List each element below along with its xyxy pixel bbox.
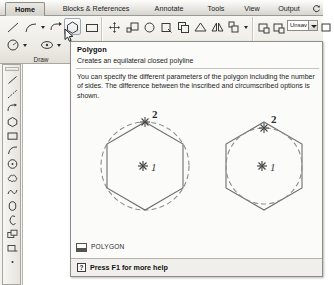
arc-tool[interactable]: [5, 143, 20, 157]
tooltip-command-label: POLYGON: [91, 243, 125, 250]
ribbon-tab-tools[interactable]: Tools: [200, 2, 232, 16]
tooltip-command-row: POLYGON: [76, 242, 319, 255]
layer-state-tool-button[interactable]: [271, 19, 285, 34]
svg-text:1: 1: [270, 161, 276, 173]
ribbon-tab-home[interactable]: Home: [5, 2, 45, 16]
layer-state-combo-value: Unsav: [290, 22, 307, 28]
insert-block-tool[interactable]: [5, 227, 20, 241]
layer-off-tool-button[interactable]: [319, 19, 333, 34]
toolbar-drag-handle[interactable]: [5, 67, 19, 71]
layer-properties-tool-button[interactable]: [256, 19, 270, 34]
spline-tool[interactable]: [5, 185, 20, 199]
chevron-down-icon[interactable]: [308, 21, 317, 30]
command-line-icon: [76, 243, 87, 252]
tooltip-help-hint: Press F1 for more help: [90, 263, 168, 272]
hatch-dropdown-button[interactable]: [54, 37, 62, 51]
construction-line-tool[interactable]: [5, 87, 20, 101]
array-dropdown-button[interactable]: [241, 19, 249, 34]
mirror-tool-button[interactable]: [209, 19, 224, 34]
ellipse-arc-tool[interactable]: [5, 213, 20, 227]
ribbon-tab-annotate[interactable]: Annotate: [145, 2, 193, 16]
tooltip-summary: Creates an equilateral closed polyline: [77, 57, 193, 64]
svg-text:2: 2: [152, 108, 158, 120]
scale-tool-button[interactable]: [124, 19, 139, 34]
svg-text:1: 1: [151, 161, 157, 173]
circle-tool-button[interactable]: [4, 37, 20, 51]
arc-tool-button[interactable]: [22, 19, 38, 34]
rotate-tool-button[interactable]: [141, 19, 156, 34]
rectangle-tool-button[interactable]: [83, 19, 99, 34]
extended-tooltip: Polygon Creates an equilateral closed po…: [70, 41, 323, 277]
svg-text:2: 2: [271, 113, 277, 125]
rectangle-tool[interactable]: [5, 129, 20, 143]
line-tool[interactable]: [5, 73, 20, 87]
arc-dropdown-button[interactable]: [38, 19, 46, 34]
ribbon-tab-strip: Home Blocks & References Annotate Tools …: [0, 0, 323, 16]
circle-tool[interactable]: [5, 157, 20, 171]
stretch-tool-button[interactable]: [192, 19, 207, 34]
layer-state-combo[interactable]: Unsav: [287, 20, 318, 31]
line-tool-button[interactable]: [4, 19, 20, 34]
tooltip-divider-top: [76, 68, 319, 69]
ribbon-tab-blocks-references[interactable]: Blocks & References: [55, 2, 137, 16]
polygon-tool[interactable]: [5, 115, 20, 129]
refresh-icon[interactable]: [312, 4, 321, 13]
ribbon-tab-output[interactable]: Output: [272, 2, 306, 16]
draw-panel-label: Draw: [18, 56, 64, 63]
move-tool-button[interactable]: [106, 19, 121, 34]
ellipse-tool[interactable]: [5, 199, 20, 213]
array-tool-button[interactable]: [226, 19, 241, 34]
tooltip-footer: ? Press F1 for more help: [71, 258, 322, 276]
polyline-tool[interactable]: [5, 101, 20, 115]
copy-tool-button[interactable]: [175, 19, 190, 34]
trim-tool-button[interactable]: [158, 19, 173, 34]
make-block-tool[interactable]: [5, 241, 20, 255]
inscribed-polygon-figure: 1 2: [85, 104, 205, 222]
polyline-tool-button[interactable]: [48, 19, 63, 34]
mouse-cursor: [64, 28, 75, 43]
question-mark-icon: ?: [77, 263, 86, 272]
tooltip-description: You can specify the different parameters…: [77, 72, 315, 100]
circumscribed-polygon-figure: 1 2: [204, 104, 323, 222]
revision-cloud-tool[interactable]: [5, 171, 20, 185]
point-tool[interactable]: [5, 255, 20, 269]
circle-dropdown-button[interactable]: [20, 37, 28, 51]
draw-toolbar: [2, 64, 21, 285]
ribbon-tab-view[interactable]: View: [238, 2, 266, 16]
tooltip-title: Polygon: [77, 45, 107, 54]
hatch-tool-button[interactable]: [38, 37, 54, 51]
